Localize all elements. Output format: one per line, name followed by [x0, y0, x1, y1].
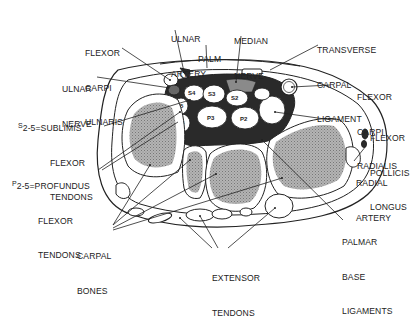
label-median-nerve: MEDIAN NERVE — [234, 13, 268, 94]
label-palmar-base-ligaments: PALMAR BASE LIGAMENTS — [342, 214, 393, 320]
tendon-tag-p2: P2 — [240, 116, 248, 122]
tendon-tag-s3: S3 — [208, 91, 216, 97]
label-palm: PALM — [198, 31, 221, 77]
tendon-tag-p3: P3 — [207, 115, 215, 121]
label-carpal-bones: CARPAL BONES — [77, 228, 111, 309]
tendon-tag-s2: S2 — [231, 95, 239, 101]
label-extensor-tendons: EXTENSOR TENDONS — [212, 250, 260, 320]
